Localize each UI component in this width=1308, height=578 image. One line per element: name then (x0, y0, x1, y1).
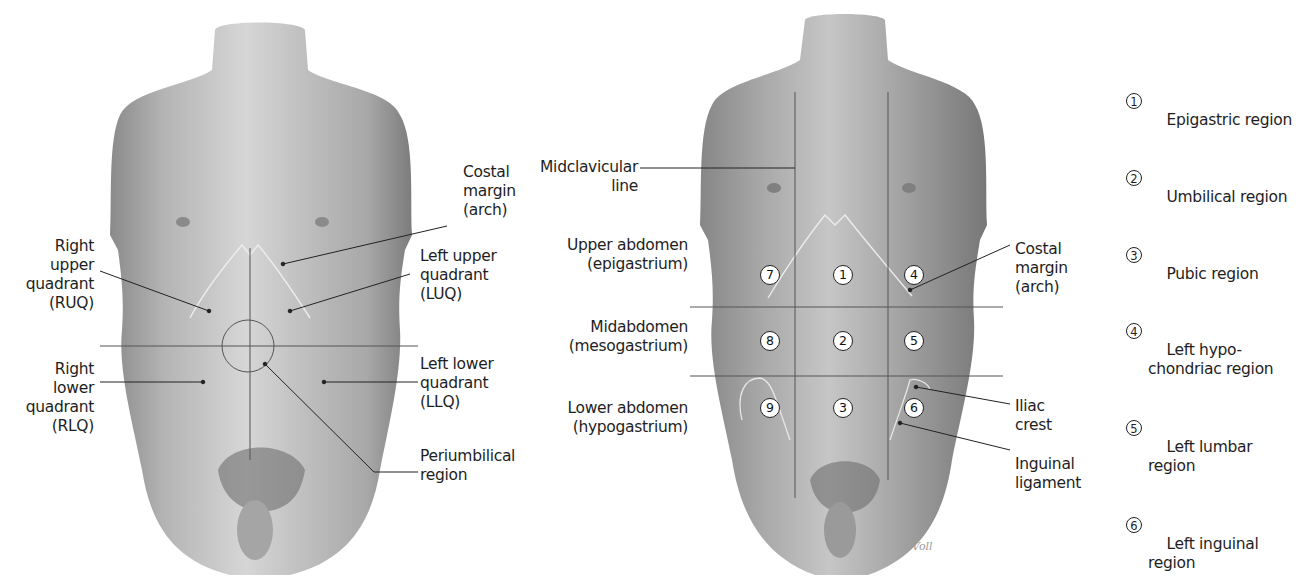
region-marker-3: 3 (833, 398, 853, 418)
label-costal-margin-left: Costal margin (arch) (463, 163, 516, 220)
label-right-upper-quadrant: Right upper quadrant (RUQ) (26, 237, 94, 313)
legend-text: Epigastric region (1167, 111, 1292, 129)
label-lower-abdomen: Lower abdomen (hypogastrium) (567, 399, 688, 437)
region-marker-5: 5 (904, 331, 924, 351)
legend-text: Left lumbar region (1148, 438, 1252, 475)
legend-item: 1Epigastric region (1126, 92, 1308, 149)
legend-item: 5Left lumbar region (1126, 419, 1308, 495)
region-marker-7: 7 (760, 265, 780, 285)
legend-number: 3 (1126, 247, 1142, 263)
legend-number: 5 (1126, 420, 1142, 436)
label-inguinal-ligament: Inguinal ligament (1015, 455, 1081, 493)
label-periumbilical-region: Periumbilical region (420, 447, 515, 485)
region-marker-2: 2 (833, 331, 853, 351)
legend-item: 6Left inguinal region (1126, 516, 1308, 578)
label-midclavicular-line: Midclavicular line (540, 158, 638, 196)
label-left-upper-quadrant: Left upper quadrant (LUQ) (420, 247, 497, 304)
legend-item: 3Pubic region (1126, 246, 1308, 303)
region-marker-9: 9 (760, 398, 780, 418)
region-marker-6: 6 (904, 398, 924, 418)
legend-text: Left hypo- chondriac region (1148, 341, 1273, 378)
label-midabdomen: Midabdomen (mesogastrium) (569, 318, 688, 356)
legend-number: 4 (1126, 323, 1142, 339)
label-costal-margin-right: Costal margin (arch) (1015, 240, 1068, 297)
region-legend: 1Epigastric region 2Umbilical region 3Pu… (1126, 92, 1308, 578)
legend-text: Left inguinal region (1148, 535, 1258, 572)
legend-number: 2 (1126, 170, 1142, 186)
torso-right (690, 14, 1003, 575)
legend-number: 1 (1126, 93, 1142, 109)
legend-item: 2Umbilical region (1126, 169, 1308, 226)
legend-number: 6 (1126, 517, 1142, 533)
legend-item: 4Left hypo- chondriac region (1126, 322, 1308, 398)
label-left-lower-quadrant: Left lower quadrant (LLQ) (420, 355, 493, 412)
label-right-lower-quadrant: Right lower quadrant (RLQ) (26, 360, 94, 436)
torso-left (100, 23, 418, 576)
region-marker-1: 1 (833, 265, 853, 285)
anatomy-illustration (0, 0, 1308, 578)
artist-signature: Voll (912, 540, 933, 553)
legend-text: Umbilical region (1167, 188, 1288, 206)
label-iliac-crest: Iliac crest (1015, 397, 1052, 435)
legend-text: Pubic region (1167, 265, 1259, 283)
label-upper-abdomen: Upper abdomen (epigastrium) (567, 236, 688, 274)
region-marker-4: 4 (904, 265, 924, 285)
region-marker-8: 8 (760, 331, 780, 351)
